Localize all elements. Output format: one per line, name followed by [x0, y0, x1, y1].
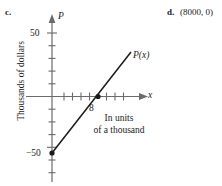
units-note-line-2: of a thousand [93, 125, 144, 135]
x-axis-name: x [148, 90, 152, 100]
y-axis [49, 14, 56, 182]
function-label: P(x) [133, 50, 149, 60]
y-axis-name: P [58, 11, 64, 21]
units-note-line-1: In units [105, 113, 134, 123]
endpoint-marker [49, 150, 54, 155]
x-intercept-marker [95, 94, 100, 99]
y-tick-label-minus-50: −50 [26, 148, 41, 158]
figure-panel: c. d. (8000, 0) Thousands of dollars [0, 0, 222, 186]
x-axis [26, 93, 148, 100]
y-tick-label-50: 50 [30, 28, 40, 38]
units-note: In units of a thousand [80, 112, 158, 136]
